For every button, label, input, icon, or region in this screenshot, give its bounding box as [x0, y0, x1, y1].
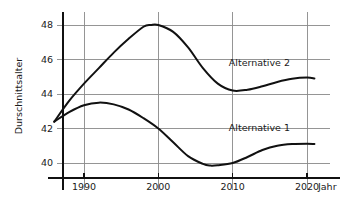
- y-axis-tick-labels: 4042444648: [41, 19, 53, 168]
- x-axis-title: Jahr: [317, 181, 337, 192]
- y-axis-title: Durschnittsalter: [13, 58, 24, 135]
- chart-container: 4042444648 1990200020102020 Alternative …: [0, 0, 350, 215]
- y-tick-label-48: 48: [41, 19, 53, 30]
- line-chart: 4042444648 1990200020102020 Alternative …: [0, 0, 350, 215]
- x-tick-label-2010: 2010: [221, 181, 245, 192]
- series-label-1: Alternative 2: [229, 57, 290, 68]
- series-lines: [54, 24, 314, 165]
- gridlines-horizontal: [57, 25, 330, 163]
- y-tick-label-44: 44: [41, 88, 53, 99]
- y-tick-label-40: 40: [41, 157, 53, 168]
- series-line-1: [54, 24, 314, 121]
- series-label-2: Alternative 1: [229, 122, 290, 133]
- x-tick-label-1990: 1990: [72, 181, 96, 192]
- x-axis: [48, 173, 340, 178]
- y-tick-label-42: 42: [41, 123, 53, 134]
- x-tick-label-2020: 2020: [295, 181, 319, 192]
- x-tick-label-2000: 2000: [146, 181, 170, 192]
- series-line-2: [54, 103, 314, 166]
- y-tick-label-46: 46: [41, 54, 53, 65]
- series-annotations: Alternative 2Alternative 1: [229, 57, 290, 133]
- x-axis-tick-labels: 1990200020102020: [72, 181, 319, 192]
